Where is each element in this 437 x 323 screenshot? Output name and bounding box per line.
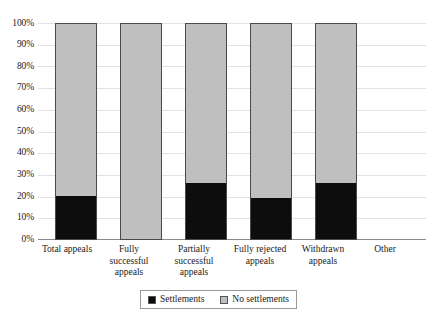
x-axis-tick-label-partially-successful-appeals: Partially successful appeals (160, 244, 228, 279)
plot-area (38, 23, 426, 240)
legend-entry-settlements[interactable]: Settlements (148, 294, 204, 305)
bar-stack (55, 23, 97, 240)
legend-swatch-icon (220, 296, 228, 304)
x-axis-tick-label-fully-rejected-appeals: Fully rejected appeals (228, 244, 292, 267)
segment-settlements (316, 183, 356, 239)
segment-no-settlements (186, 24, 226, 183)
y-axis-tick-label: 40% (0, 147, 34, 157)
segment-no-settlements (316, 24, 356, 183)
segment-settlements (186, 183, 226, 239)
y-axis-tick-label: 80% (0, 61, 34, 71)
y-axis-tick-label: 20% (0, 191, 34, 201)
segment-no-settlements (121, 24, 161, 239)
y-axis-tick-label: 50% (0, 126, 34, 136)
x-axis-tick-label-fully-successful-appeals: Fully successful appeals (99, 244, 159, 279)
y-axis-tick-label: 60% (0, 104, 34, 114)
x-axis-tick-label-total-appeals: Total appeals (30, 244, 104, 256)
chart-legend: Settlements No settlements (140, 290, 297, 309)
bar-partially-successful-appeals[interactable] (185, 23, 227, 240)
bar-withdrawn-appeals[interactable] (315, 23, 357, 240)
stacked-bar-chart: 100% 90% 80% 70% 60% 50% 40% 30% 20% 10%… (0, 0, 437, 323)
y-axis-tick-label: 90% (0, 39, 34, 49)
segment-no-settlements (251, 24, 291, 198)
y-axis-tick-label: 10% (0, 212, 34, 222)
y-axis-tick-label: 0% (0, 234, 34, 244)
y-axis-tick-label: 100% (0, 18, 34, 28)
x-axis-tick-label-withdrawn-appeals: Withdrawn appeals (293, 244, 353, 267)
bar-total-appeals[interactable] (55, 23, 97, 240)
bar-stack (120, 23, 162, 240)
x-axis-tick-label-other: Other (355, 244, 415, 256)
bar-fully-rejected-appeals[interactable] (250, 23, 292, 240)
legend-entry-no-settlements[interactable]: No settlements (220, 294, 289, 305)
segment-settlements (56, 196, 96, 239)
segment-settlements (251, 198, 291, 239)
y-axis-tick-label: 30% (0, 169, 34, 179)
bar-stack (250, 23, 292, 240)
segment-no-settlements (56, 24, 96, 196)
legend-label: No settlements (232, 294, 289, 305)
bar-stack (185, 23, 227, 240)
legend-label: Settlements (160, 294, 204, 305)
bar-fully-successful-appeals[interactable] (120, 23, 162, 240)
legend-swatch-icon (148, 296, 156, 304)
bar-stack (315, 23, 357, 240)
y-axis-tick-label: 70% (0, 82, 34, 92)
bar-other[interactable] (380, 23, 422, 240)
